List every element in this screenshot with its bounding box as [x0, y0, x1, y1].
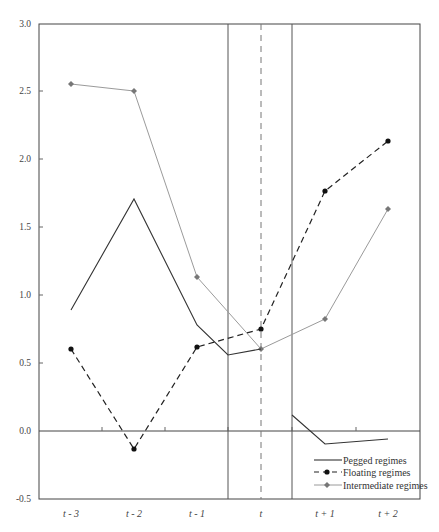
data-point-marker — [131, 446, 136, 451]
series-floating-regimes — [68, 138, 390, 451]
y-tick-label: 0.5 — [19, 358, 31, 368]
legend-label: Floating regimes — [343, 467, 411, 478]
data-point-marker — [322, 316, 328, 322]
y-tick-label: 2.5 — [19, 86, 31, 96]
y-tick-label: 1.0 — [19, 290, 31, 300]
y-tick-label: 2.0 — [19, 154, 31, 164]
y-tick-label: -0.5 — [16, 494, 31, 504]
x-axis-labels: t - 3 t - 2 t - 1 t t + 1 t + 2 — [63, 508, 398, 519]
y-axis-ticks — [39, 91, 43, 363]
data-point-marker — [385, 138, 390, 143]
line-chart: 3.0 2.5 2.0 1.5 1.0 0.5 0.0 -0.5 — [0, 0, 439, 532]
y-axis-labels: 3.0 2.5 2.0 1.5 1.0 0.5 0.0 -0.5 — [16, 19, 31, 504]
x-axis-ticks — [102, 427, 356, 431]
data-point-marker — [68, 81, 74, 87]
legend-diamond-marker-icon — [324, 482, 330, 488]
data-point-marker — [258, 326, 263, 331]
x-tick-label: t + 1 — [315, 508, 335, 519]
y-tick-label: 1.5 — [19, 222, 31, 232]
legend: Pegged regimes Floating regimes Intermed… — [314, 455, 428, 491]
data-point-marker — [194, 344, 199, 349]
legend-label: Pegged regimes — [343, 455, 407, 466]
legend-label: Intermediate regimes — [343, 480, 428, 491]
data-point-marker — [385, 206, 391, 212]
legend-item-intermediate: Intermediate regimes — [314, 480, 428, 491]
data-point-marker — [68, 346, 73, 351]
data-point-marker — [322, 188, 327, 193]
x-tick-label: t - 1 — [189, 508, 205, 519]
series-pegged-regimes — [71, 199, 388, 444]
y-tick-label: 0.0 — [19, 426, 31, 436]
legend-circle-marker-icon — [324, 469, 329, 474]
legend-item-floating: Floating regimes — [314, 467, 411, 478]
data-point-marker — [131, 88, 137, 94]
x-tick-label: t - 2 — [126, 508, 142, 519]
plot-frame — [39, 24, 420, 499]
y-tick-label: 3.0 — [19, 19, 31, 29]
x-tick-label: t - 3 — [63, 508, 79, 519]
x-tick-label: t — [260, 508, 263, 519]
series-intermediate-regimes — [68, 81, 391, 352]
legend-item-pegged: Pegged regimes — [314, 455, 407, 466]
x-tick-label: t + 2 — [378, 508, 398, 519]
